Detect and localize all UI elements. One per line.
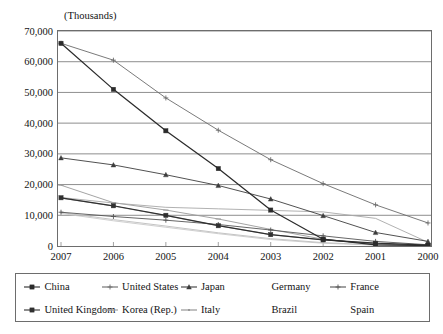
gridlines xyxy=(58,31,431,215)
y-axis-tick-label: 40,000 xyxy=(1,118,53,129)
y-axis-tick-label: 10,000 xyxy=(1,210,53,221)
plot-svg xyxy=(58,31,431,246)
x-axis-tick-label: 2005 xyxy=(143,250,189,263)
legend-label: Japan xyxy=(201,281,225,293)
legend-item[interactable]: United States xyxy=(101,275,178,299)
legend-marker-icon xyxy=(180,282,198,292)
series-united-states xyxy=(59,41,431,226)
legend-marker-icon xyxy=(180,305,198,315)
legend-marker-icon xyxy=(23,305,41,315)
chart-legend: ChinaUnited StatesJapanGermanyFrance Uni… xyxy=(15,273,430,322)
legend-row: United KingdomKorea (Rep.)ItalyBrazilSpa… xyxy=(16,298,429,322)
legend-label: United States xyxy=(122,281,178,293)
legend-row: ChinaUnited StatesJapanGermanyFrance xyxy=(16,275,429,299)
legend-item[interactable]: Germany xyxy=(250,275,310,299)
legend-label: Germany xyxy=(271,281,310,293)
legend-marker-icon xyxy=(101,305,119,315)
y-axis-tick-label: 30,000 xyxy=(1,148,53,159)
legend-label: Spain xyxy=(350,304,374,316)
legend-item[interactable]: Korea (Rep.) xyxy=(101,298,177,322)
legend-item[interactable]: Brazil xyxy=(250,298,297,322)
x-axis-tick-label: 2006 xyxy=(90,250,136,263)
y-axis-tick-label: 70,000 xyxy=(1,26,53,37)
x-axis-tick-label: 2002 xyxy=(300,250,346,263)
x-axis-tick-label: 2000 xyxy=(405,250,443,263)
line-chart: (Thousands) 70,00060,00050,00040,00030,0… xyxy=(0,0,443,334)
x-axis-tick-label: 2001 xyxy=(353,250,399,263)
plot-area xyxy=(57,30,432,247)
y-axis-unit-caption: (Thousands) xyxy=(64,10,117,22)
x-axis-tick-labels: 20072006200520042003200220012000 xyxy=(57,250,432,266)
x-axis-tick-label: 2004 xyxy=(195,250,241,263)
legend-marker-icon xyxy=(250,282,268,292)
y-axis-tick-label: 60,000 xyxy=(1,56,53,67)
legend-label: China xyxy=(44,281,69,293)
legend-label: Italy xyxy=(201,304,220,316)
y-axis-tick-label: 20,000 xyxy=(1,179,53,190)
legend-marker-icon xyxy=(101,282,119,292)
legend-item[interactable]: China xyxy=(23,275,69,299)
legend-marker-icon xyxy=(329,305,347,315)
x-axis-tick-label: 2007 xyxy=(38,250,84,263)
legend-item[interactable]: Japan xyxy=(180,275,225,299)
legend-label: France xyxy=(350,281,379,293)
y-axis-tick-label: 50,000 xyxy=(1,87,53,98)
legend-item[interactable]: Italy xyxy=(180,298,220,322)
legend-marker-icon xyxy=(23,282,41,292)
legend-item[interactable]: Spain xyxy=(329,298,374,322)
x-axis-tick-label: 2003 xyxy=(248,250,294,263)
legend-label: Korea (Rep.) xyxy=(122,304,177,316)
legend-item[interactable]: France xyxy=(329,275,379,299)
legend-label: Brazil xyxy=(271,304,297,316)
legend-marker-icon xyxy=(329,282,347,292)
legend-marker-icon xyxy=(250,305,268,315)
